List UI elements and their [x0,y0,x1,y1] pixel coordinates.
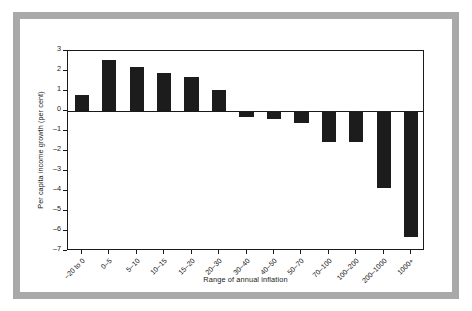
bar [322,111,336,142]
y-tick: 2 [20,70,67,71]
y-tick-label: –1 [53,124,61,133]
bar [349,111,363,142]
figure-inner: Per capita income growth (per cent) 3210… [20,19,452,292]
bar [184,77,198,111]
y-tick-label: 0 [57,104,61,113]
x-tick-mark [300,250,301,254]
x-tick-mark [163,250,164,254]
x-tick-label: 20–30 [204,257,224,277]
y-tick-mark [63,250,67,251]
y-tick-label: –6 [53,224,61,233]
x-tick-mark [410,250,411,254]
y-tick: –2 [20,150,67,151]
x-tick-label: 30–40 [232,257,252,277]
x-tick-mark [273,250,274,254]
x-tick-label: 0–5 [100,257,114,271]
x-tick-label: 1000+ [396,257,416,277]
bar [404,111,418,237]
x-tick-label: 10–15 [149,257,169,277]
bar-chart: Per capita income growth (per cent) 3210… [20,19,466,306]
y-tick-label: 3 [57,44,61,53]
y-tick: –4 [20,190,67,191]
y-tick: –3 [20,170,67,171]
y-tick: 3 [20,50,67,51]
y-tick-label: –5 [53,204,61,213]
x-tick-mark [108,250,109,254]
bar [239,111,253,117]
y-tick: 1 [20,90,67,91]
y-tick: –5 [20,210,67,211]
x-tick-mark [191,250,192,254]
plot-area [67,50,424,250]
y-tick-label: –7 [53,244,61,253]
x-axis-title: Range of annual inflation [67,275,424,284]
bar [267,111,281,119]
bar [75,95,89,111]
y-tick: –7 [20,250,67,251]
bar [157,73,171,111]
y-tick: –1 [20,130,67,131]
x-tick-mark [218,250,219,254]
x-tick-mark [81,250,82,254]
bar [294,111,308,123]
y-tick: 0 [20,110,67,111]
y-tick-label: –3 [53,164,61,173]
figure-root: Per capita income growth (per cent) 3210… [0,0,472,311]
x-tick-mark [355,250,356,254]
x-tick-mark [136,250,137,254]
figure-frame: Per capita income growth (per cent) 3210… [13,12,459,299]
x-tick-mark [246,250,247,254]
y-tick-label: –4 [53,184,61,193]
x-tick-mark [383,250,384,254]
x-tick-label: 5–10 [124,257,141,274]
bar [212,90,226,111]
x-tick-label: 40–50 [259,257,279,277]
bar [377,111,391,188]
bar [102,60,116,111]
x-tick-label: 50–70 [286,257,306,277]
y-tick-label: 1 [57,84,61,93]
y-tick-label: 2 [57,64,61,73]
x-tick-mark [328,250,329,254]
y-tick-label: –2 [53,144,61,153]
x-tick-label: 15–20 [177,257,197,277]
bar [130,67,144,111]
y-tick: –6 [20,230,67,231]
